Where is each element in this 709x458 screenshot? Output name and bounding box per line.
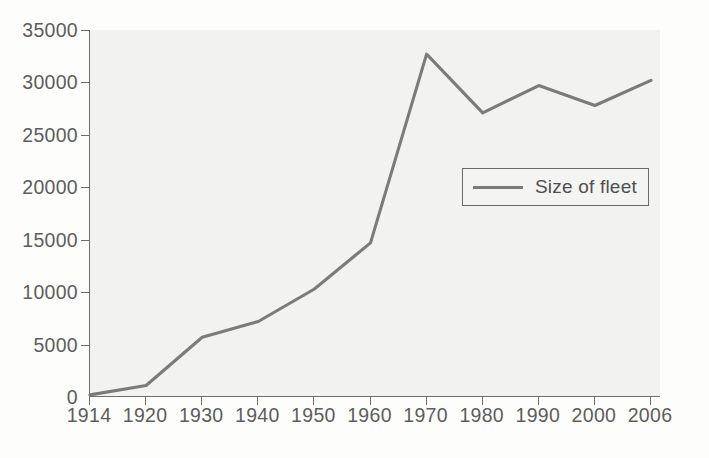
legend-label: Size of fleet [535,176,637,198]
y-tick-label: 20000 [0,176,78,199]
x-tick-mark [426,397,427,405]
x-tick-mark [538,397,539,405]
x-tick-mark [89,397,90,405]
legend-line-swatch [473,186,523,189]
y-tick-label: 5000 [0,333,78,356]
y-tick-label: 10000 [0,281,78,304]
y-tick-label: 35000 [0,19,78,42]
series-canvas [90,30,661,397]
series-line-size-of-fleet [90,54,651,395]
y-tick-label: 15000 [0,228,78,251]
chart-figure: 05000100001500020000250003000035000 1914… [0,0,709,458]
x-tick-mark [482,397,483,405]
x-tick-mark [594,397,595,405]
x-tick-mark [370,397,371,405]
y-tick-label: 30000 [0,71,78,94]
y-tick-label: 25000 [0,123,78,146]
x-tick-mark [650,397,651,405]
x-tick-mark [201,397,202,405]
legend: Size of fleet [462,168,649,206]
x-tick-mark [145,397,146,405]
x-tick-label: 2006 [615,404,685,427]
x-tick-mark [313,397,314,405]
x-tick-mark [257,397,258,405]
plot-area [89,30,660,397]
